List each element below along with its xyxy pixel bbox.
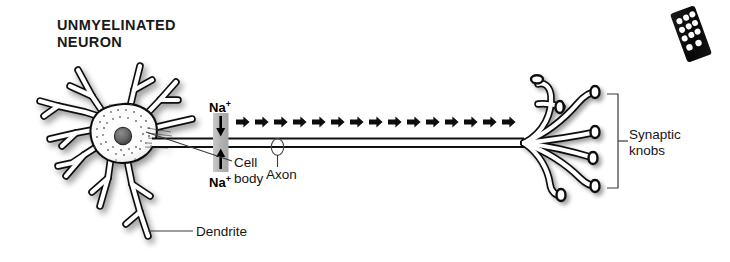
impulse-arrow bbox=[236, 116, 250, 127]
impulse-arrow bbox=[388, 116, 402, 127]
label-sodium-ion-bottom: Na+ bbox=[209, 176, 231, 189]
label-synaptic-knobs: Synaptic knobs bbox=[629, 127, 681, 158]
nucleus bbox=[114, 127, 131, 144]
page-title: UNMYELINATED NEURON bbox=[57, 17, 176, 51]
impulse-arrow bbox=[464, 116, 478, 127]
synaptic-knob bbox=[556, 101, 564, 113]
impulse-arrow bbox=[407, 116, 421, 127]
axon-shaft bbox=[152, 139, 524, 148]
impulse-arrow-row bbox=[236, 116, 516, 127]
sodium-symbol-bottom: Na bbox=[209, 175, 226, 190]
impulse-arrow bbox=[293, 116, 307, 127]
impulse-arrow bbox=[331, 116, 345, 127]
sodium-charge-top: + bbox=[226, 99, 231, 109]
synaptic-knob bbox=[591, 180, 600, 192]
impulse-arrow bbox=[502, 116, 516, 127]
impulse-arrow bbox=[426, 116, 440, 127]
synaptic-knobs-bracket bbox=[607, 94, 628, 188]
label-cell-body: Cell body bbox=[234, 155, 263, 186]
impulse-arrow bbox=[350, 116, 364, 127]
synaptic-knob bbox=[591, 86, 600, 98]
neuron-diagram-canvas: UNMYELINATED NEURON Cell body Dendrite A… bbox=[0, 0, 730, 262]
remote-control-icon bbox=[670, 5, 712, 63]
synaptic-knob bbox=[557, 189, 566, 201]
synaptic-knob bbox=[589, 152, 598, 164]
sodium-symbol-top: Na bbox=[209, 100, 226, 115]
sodium-charge-bottom: + bbox=[226, 174, 231, 184]
impulse-arrow bbox=[274, 116, 288, 127]
axon-terminals bbox=[524, 75, 600, 201]
impulse-arrow bbox=[255, 116, 269, 127]
label-axon: Axon bbox=[266, 167, 297, 183]
label-dendrite: Dendrite bbox=[196, 224, 247, 240]
impulse-arrow bbox=[483, 116, 497, 127]
sodium-channel bbox=[213, 113, 229, 172]
impulse-arrow bbox=[445, 116, 459, 127]
impulse-arrow bbox=[312, 116, 326, 127]
label-sodium-ion-top: Na+ bbox=[209, 101, 231, 114]
soma-and-dendrites bbox=[40, 66, 192, 236]
impulse-arrow bbox=[369, 116, 383, 127]
synaptic-knob bbox=[591, 126, 600, 138]
synaptic-knob bbox=[531, 75, 543, 83]
